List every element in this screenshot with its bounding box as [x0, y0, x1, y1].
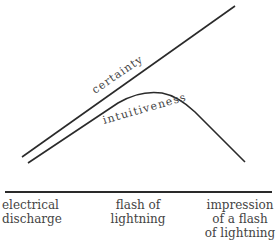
axis-label-line: lightning	[108, 212, 168, 226]
intuitiveness-curve	[28, 92, 245, 163]
axis-label-impression: impression of a flash of lightning	[204, 198, 276, 240]
intuitiveness-label: intuitiveness	[101, 90, 188, 126]
axis-label-line: electrical	[2, 198, 58, 212]
axis-label-flash-of-lightning: flash of lightning	[108, 198, 168, 226]
axis-label-line: impression	[204, 198, 276, 212]
axis-label-line: discharge	[2, 212, 58, 226]
certainty-line	[22, 6, 235, 157]
axis-label-electrical-discharge: electrical discharge	[2, 198, 58, 226]
axis-label-line: flash of	[108, 198, 168, 212]
axis-label-line: of a flash	[204, 212, 276, 226]
axis-label-line: of lightning	[204, 226, 276, 240]
